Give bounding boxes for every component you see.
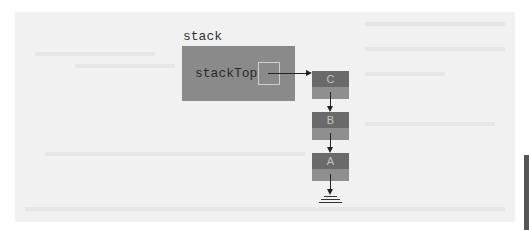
node-data: B [312,112,349,128]
pointer-line [268,73,306,74]
node-data: C [312,71,349,87]
stacktop-label: stackTop [195,66,257,81]
stack-label: stack [183,29,222,44]
ghost-text [365,22,505,26]
link-line [330,174,331,190]
arrow-down-icon [327,189,333,195]
ghost-text [25,207,505,211]
ghost-text [365,72,445,76]
ghost-text [365,122,495,126]
link-line [330,92,331,107]
ghost-text [45,152,305,156]
link-line [330,133,331,148]
node-data: A [312,153,349,169]
side-bar [524,155,529,230]
ghost-text [365,47,505,51]
diagram-panel [15,12,515,222]
ghost-text [75,64,175,68]
ghost-text [35,52,155,56]
